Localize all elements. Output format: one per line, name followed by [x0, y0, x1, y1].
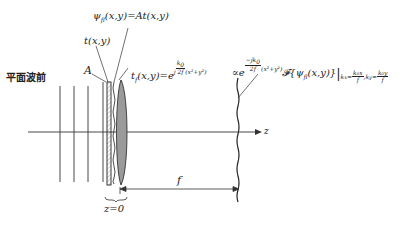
- focal-length-label: f: [177, 175, 181, 186]
- thin-lens: [117, 80, 128, 185]
- psi-field-label: ψfl(x,y)=At(x,y): [93, 11, 169, 23]
- focal-length-dimension: [120, 187, 239, 195]
- fourier-optics-diagram: 平面波前 A t(x,y) ψfl(x,y)=At(x,y) tf(x,y)=e…: [0, 0, 404, 225]
- wavy-field-line: [113, 82, 115, 184]
- diagram-drawing: [0, 0, 404, 225]
- focal-plane: [237, 78, 239, 202]
- origin-label: z=0: [104, 204, 124, 214]
- z-axis: [28, 129, 262, 135]
- plane-wavefront-label: 平面波前: [6, 73, 46, 83]
- output-field-label: ∝e−jk02f(x²+y²)𝓕{ψfl(x,y)}|kx=k₀xf,ky=k₀…: [232, 57, 388, 83]
- z-axis-label: z: [264, 127, 269, 136]
- lens-transfer-function-label: tf(x,y)=ejk02f(x²+y²): [131, 60, 206, 83]
- transmittance-label: t(x,y): [84, 36, 110, 46]
- transparency-plate: [107, 82, 111, 185]
- amplitude-label: A: [84, 65, 92, 76]
- origin-brace: [105, 197, 127, 202]
